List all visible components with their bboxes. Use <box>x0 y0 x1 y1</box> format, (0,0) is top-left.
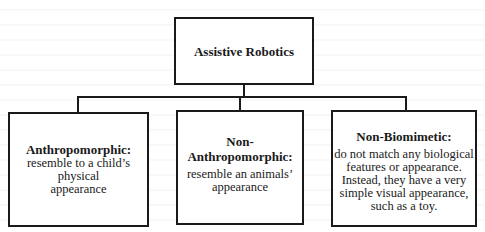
child-node-non-biomimetic: Non-Biomimetic: do not match any biologi… <box>331 110 477 227</box>
node-title-line: Anthropomorphic: <box>187 149 292 164</box>
root-node-assistive-robotics: Assistive Robotics <box>174 17 314 85</box>
branch-connector-horizontal <box>77 96 407 98</box>
root-node-label: Assistive Robotics <box>194 44 294 59</box>
right-connector-vertical <box>405 96 407 111</box>
child-node-anthropomorphic: Anthropomorphic: resemble to a child’s p… <box>8 112 149 227</box>
node-title: Anthropomorphic: <box>26 142 131 157</box>
middle-connector-vertical <box>239 96 241 111</box>
left-connector-vertical <box>77 96 79 113</box>
node-title: Non-Biomimetic: <box>356 129 451 144</box>
node-title-line: Non- <box>226 134 253 149</box>
node-description-line: appearance <box>212 181 268 194</box>
node-description-line: such as a toy. <box>371 200 438 213</box>
node-description-line: appearance <box>50 183 106 196</box>
child-node-non-anthropomorphic: Non- Anthropomorphic: resemble an animal… <box>176 110 304 225</box>
